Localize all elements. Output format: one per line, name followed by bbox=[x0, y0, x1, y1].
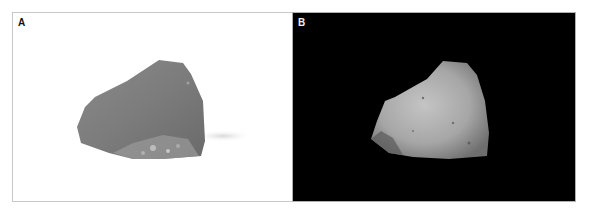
rock-image-black-bg bbox=[293, 13, 576, 202]
panel-b: B bbox=[292, 12, 576, 202]
rock-image-white-bg bbox=[13, 13, 292, 202]
panel-a: A bbox=[12, 12, 292, 202]
figure: A B bbox=[0, 0, 590, 211]
